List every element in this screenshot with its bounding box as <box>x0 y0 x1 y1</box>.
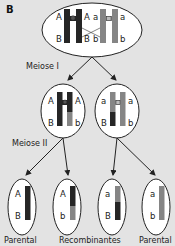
allele-label: b <box>120 34 125 44</box>
label-parental-right: Parental <box>139 236 172 245</box>
allele-label: b <box>128 118 133 128</box>
chromosome-light <box>100 9 106 43</box>
allele-label: B <box>84 34 90 44</box>
allele-label: b <box>75 118 80 128</box>
allele-label: A <box>60 189 66 199</box>
allele-label: a <box>93 12 98 22</box>
allele-label: a <box>101 96 106 106</box>
arrow-icon <box>117 138 155 175</box>
allele-label: B <box>15 211 21 221</box>
allele-label: B <box>48 118 54 128</box>
allele-label: A <box>15 189 21 199</box>
allele-label: a <box>128 96 133 106</box>
allele-label: b <box>60 211 65 221</box>
middle-cell-right: a B a b <box>95 84 139 138</box>
allele-label: B <box>56 34 62 44</box>
middle-cell-left: A B A b <box>41 84 85 138</box>
allele-label: b <box>93 34 98 44</box>
label-recombinantes: Recombinantes <box>59 236 121 245</box>
meiosis-diagram: B A B A B a b a b Meiose I A <box>0 0 175 246</box>
stage-label-meiosis-1: Meiose I <box>26 62 59 71</box>
allele-label: a <box>150 189 155 199</box>
chromosome-dark <box>64 9 70 43</box>
arrow-icon <box>92 57 116 80</box>
allele-label: A <box>75 96 81 106</box>
arrow-icon <box>113 138 117 175</box>
gamete-2: A b <box>53 179 81 235</box>
gamete-4: a b <box>142 179 170 235</box>
arrow-icon <box>68 57 92 80</box>
panel-label: B <box>6 4 14 15</box>
chromosome-light <box>112 9 118 43</box>
allele-label: A <box>56 12 62 22</box>
allele-label: B <box>101 118 107 128</box>
allele-label: a <box>105 189 110 199</box>
allele-label: A <box>84 12 90 22</box>
allele-label: B <box>105 211 111 221</box>
top-cell: A B A B a b a b <box>42 3 142 57</box>
allele-label: a <box>120 12 125 22</box>
chromosome-dark <box>76 9 82 43</box>
stage-label-meiosis-2: Meiose II <box>12 139 47 148</box>
arrow-icon <box>63 138 68 175</box>
gamete-1: A B <box>8 179 36 235</box>
gamete-3: a B <box>98 179 126 235</box>
allele-label: A <box>48 96 54 106</box>
label-parental-left: Parental <box>4 236 37 245</box>
allele-label: b <box>150 211 155 221</box>
